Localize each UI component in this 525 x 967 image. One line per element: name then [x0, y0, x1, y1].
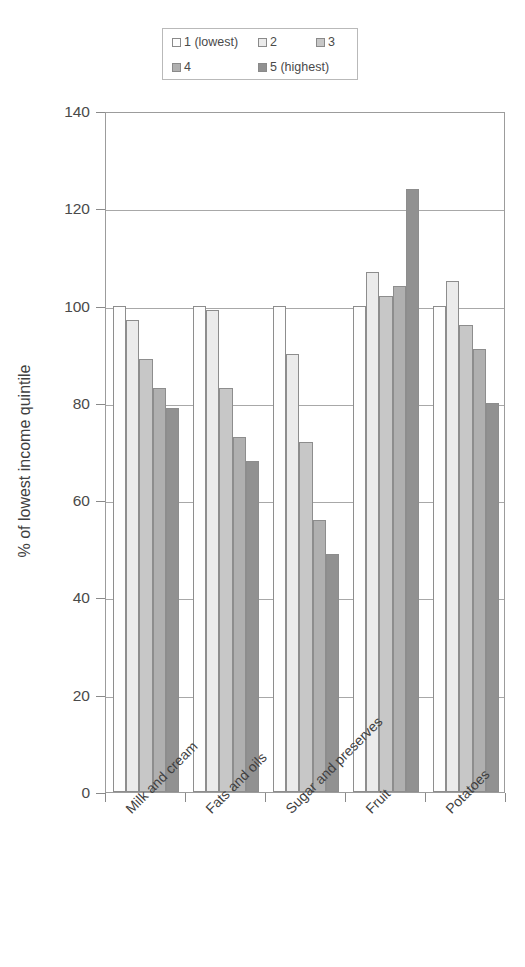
- y-tick-mark: [96, 793, 105, 794]
- y-tick-mark: [96, 307, 105, 308]
- legend-label-2: 2: [270, 36, 277, 49]
- legend-entry-5: 5 (highest): [258, 61, 329, 74]
- bar: [313, 520, 326, 792]
- y-tick-label: 40: [73, 591, 90, 607]
- y-tick-label: 120: [64, 202, 90, 218]
- bar: [206, 310, 219, 792]
- bar-chart: 1 (lowest) 2 3 4 5 (highest) 14012010080…: [0, 0, 525, 967]
- bar: [246, 461, 259, 792]
- y-tick-mark: [96, 404, 105, 405]
- bar: [299, 442, 312, 792]
- y-tick-mark: [96, 598, 105, 599]
- bar: [193, 306, 206, 792]
- x-tick-mark: [425, 793, 426, 802]
- bar: [486, 403, 499, 792]
- y-tick-mark: [96, 112, 105, 113]
- legend-label-1: 1 (lowest): [184, 36, 238, 49]
- bar: [153, 388, 166, 792]
- y-tick-mark: [96, 696, 105, 697]
- legend-swatch-icon-3: [316, 38, 325, 47]
- bar: [139, 359, 152, 792]
- bar: [166, 408, 179, 792]
- legend-entry-1: 1 (lowest): [172, 36, 238, 49]
- x-tick-mark: [505, 793, 506, 802]
- y-tick-label: 20: [73, 688, 90, 704]
- bar: [379, 296, 392, 792]
- x-tick-mark: [345, 793, 346, 802]
- y-axis-title: % of lowest income quintile: [16, 181, 34, 741]
- bar: [353, 306, 366, 792]
- plot-area: [105, 112, 505, 793]
- legend-row-2: 4 5 (highest): [163, 54, 357, 80]
- legend-entry-2: 2: [258, 36, 277, 49]
- legend-entry-4: 4: [172, 61, 191, 74]
- gridline: [106, 210, 504, 211]
- bar: [286, 354, 299, 792]
- chart-legend: 1 (lowest) 2 3 4 5 (highest): [162, 28, 358, 80]
- bar: [113, 306, 126, 792]
- bar: [126, 320, 139, 792]
- y-axis-labels: 140120100806040200: [38, 0, 90, 967]
- legend-label-3: 3: [328, 36, 335, 49]
- y-tick-mark: [96, 209, 105, 210]
- bar: [219, 388, 232, 792]
- x-tick-mark: [265, 793, 266, 802]
- legend-swatch-icon-5: [258, 63, 267, 72]
- legend-label-5: 5 (highest): [270, 61, 329, 74]
- y-tick-label: 140: [64, 104, 90, 120]
- y-tick-mark: [96, 501, 105, 502]
- bar: [446, 281, 459, 792]
- y-tick-label: 100: [64, 299, 90, 315]
- x-tick-mark: [185, 793, 186, 802]
- bar: [406, 189, 419, 792]
- bar: [473, 349, 486, 792]
- bar: [459, 325, 472, 792]
- legend-swatch-icon-4: [172, 63, 181, 72]
- y-tick-label: 60: [73, 493, 90, 509]
- bar: [273, 306, 286, 792]
- y-tick-label: 0: [81, 785, 90, 801]
- legend-swatch-icon-1: [172, 38, 181, 47]
- y-tick-label: 80: [73, 396, 90, 412]
- bar: [393, 286, 406, 792]
- bar: [233, 437, 246, 792]
- legend-swatch-icon-2: [258, 38, 267, 47]
- legend-entry-3: 3: [316, 36, 335, 49]
- x-tick-mark: [105, 793, 106, 802]
- legend-row-1: 1 (lowest) 2 3: [163, 29, 357, 55]
- bar: [433, 306, 446, 792]
- legend-label-4: 4: [184, 61, 191, 74]
